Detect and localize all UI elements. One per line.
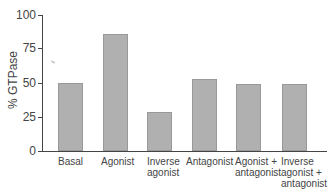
y-tick-label: 100 xyxy=(16,9,36,21)
y-tick-label: 0 xyxy=(29,145,36,157)
bar-agonist xyxy=(103,34,128,151)
y-tick xyxy=(38,151,42,152)
scan-artifact xyxy=(51,60,55,64)
bar-chart: % GTPase 0 25 50 75 100 Basal Agonist In… xyxy=(0,0,328,193)
y-tick-label: 25 xyxy=(23,111,36,123)
bar-inverse-agonist xyxy=(147,112,172,151)
x-axis-line xyxy=(42,151,327,152)
category-label-antagonist: Antagonist xyxy=(186,156,233,167)
y-tick xyxy=(38,83,42,84)
category-label-agonist-antagonist: Agonist +antagonist xyxy=(235,156,281,178)
category-label-inverse-agonist-antagonist: Inverseagonist +antagonist xyxy=(281,156,327,189)
y-axis-line xyxy=(42,15,43,152)
y-tick xyxy=(38,15,42,16)
bar-basal xyxy=(58,83,83,151)
category-label-agonist: Agonist xyxy=(101,156,134,167)
y-tick-label: 75 xyxy=(23,42,36,54)
bar-antagonist xyxy=(192,79,217,151)
category-label-inverse-agonist: Inverseagonist xyxy=(147,156,180,178)
bar-agonist-antagonist xyxy=(236,84,261,151)
category-label-basal: Basal xyxy=(58,156,83,167)
y-tick xyxy=(38,117,42,118)
y-axis-label: % GTPase xyxy=(6,45,20,115)
y-tick-label: 50 xyxy=(23,77,36,89)
y-tick xyxy=(38,48,42,49)
bar-inverse-agonist-antagonist xyxy=(282,84,307,151)
